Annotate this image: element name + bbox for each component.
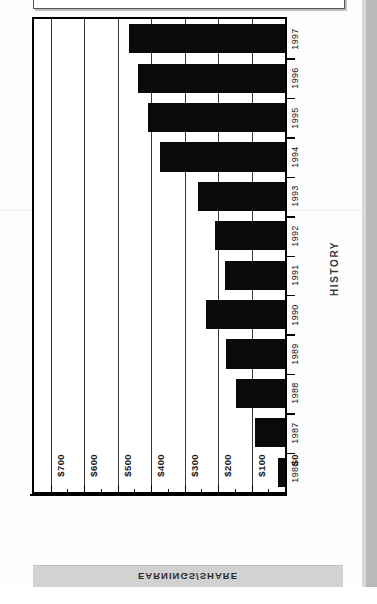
bar-1986 [278,458,285,487]
value-tick-major-600 [84,485,85,494]
category-label-1986: 1986 [290,452,300,492]
bar-1987 [255,418,285,447]
category-label-1997: 1997 [290,19,300,59]
value-axis: $700$600$500$400$300$200$100$0 [32,494,287,504]
bar-1991 [225,261,285,290]
value-tick-major-500 [118,485,119,494]
gridline-700 [51,19,52,492]
value-tick-major-400 [151,485,152,494]
bar-1996 [138,64,285,93]
bar-1997 [129,24,285,53]
category-label-1994: 1994 [290,137,300,177]
value-tick-label-600: $600 [88,454,99,500]
value-tick-label-500: $500 [122,454,133,500]
value-tick-label-100: $100 [256,454,267,500]
bar-1988 [236,379,285,408]
page-edge-band [366,0,377,604]
bar-1989 [226,339,285,368]
value-tick-minor-50 [268,489,269,494]
bar-1992 [215,221,285,250]
category-axis: 1997199619951994199319921991199019891988… [287,17,311,494]
value-tick-major-0 [285,485,286,494]
value-tick-minor-350 [168,489,169,494]
value-tick-major-700 [51,485,52,494]
value-tick-label-700: $700 [55,454,66,500]
category-label-1995: 1995 [290,98,300,138]
value-tick-minor-450 [134,489,135,494]
bar-1990 [206,300,285,329]
chart-plot-area [32,17,287,494]
gridline-600 [84,19,85,492]
value-tick-label-400: $400 [155,454,166,500]
category-label-1991: 1991 [290,255,300,295]
category-label-1992: 1992 [290,216,300,256]
category-label-1989: 1989 [290,334,300,374]
gridline-500 [118,19,119,492]
page-bottom-edge [0,587,377,604]
value-tick-minor-550 [101,489,102,494]
value-tick-minor-250 [201,489,202,494]
category-label-1987: 1987 [290,413,300,453]
value-tick-major-300 [185,485,186,494]
value-tick-major-100 [252,485,253,494]
bar-1995 [148,103,285,132]
category-label-1990: 1990 [290,295,300,335]
value-tick-label-200: $200 [222,454,233,500]
value-tick-minor-650 [67,489,68,494]
bar-1993 [198,182,285,211]
value-axis-title-band: EARNINGS/SHARE [33,565,343,588]
bar-1994 [160,142,286,171]
category-label-1993: 1993 [290,176,300,216]
page-title: CONTINUED HISTORY: EARNINGS PER SHARE [34,0,344,2]
value-tick-major-200 [218,485,219,494]
value-tick-minor-150 [235,489,236,494]
chart-title-bar: CONTINUED HISTORY: EARNINGS PER SHARE [33,0,345,9]
category-label-1988: 1988 [290,373,300,413]
category-axis-title: HISTORY [329,241,340,296]
category-label-1996: 1996 [290,58,300,98]
value-axis-title: EARNINGS/SHARE [33,571,343,582]
value-tick-label-300: $300 [189,454,200,500]
